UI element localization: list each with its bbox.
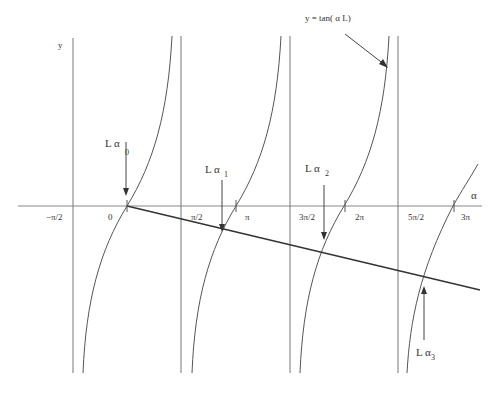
arrowhead-alpha0: [123, 188, 129, 196]
root-label-3: L α: [416, 346, 431, 358]
root-label-3-sub: 3: [431, 353, 435, 362]
tick-label-neg-pi-half: −π/2: [46, 212, 63, 222]
arrowhead-alpha2: [321, 232, 327, 240]
arrowhead-alpha3: [421, 286, 427, 294]
root-label-0: L α: [105, 137, 120, 149]
y-axis-label: y: [58, 40, 63, 50]
tick-label-0: 0: [108, 212, 113, 222]
tick-label-pi: π: [245, 212, 250, 222]
tick-label-5pi-half: 5π/2: [408, 212, 424, 222]
root-label-2: L α: [305, 162, 320, 174]
root-label-0-sub: 0: [125, 148, 129, 157]
root-label-2-sub: 2: [325, 169, 329, 178]
tick-label-3pi-half: 3π/2: [299, 212, 315, 222]
root-label-1: L α: [205, 163, 220, 175]
root-label-1-sub: 1: [224, 170, 228, 179]
x-axis-label: α: [471, 189, 477, 201]
tan-branch-3: [407, 164, 478, 373]
tick-label-2pi: 2π: [355, 212, 365, 222]
arrow-curve-label: [345, 34, 385, 65]
curve-label: y = tan( α L): [305, 13, 351, 23]
tick-label-pi-half: π/2: [191, 212, 203, 222]
tick-label-3pi: 3π: [461, 212, 471, 222]
diagram: y α y = tan( α L) −π/2 0 π/2 π 3π/2 2π 5…: [0, 0, 502, 393]
